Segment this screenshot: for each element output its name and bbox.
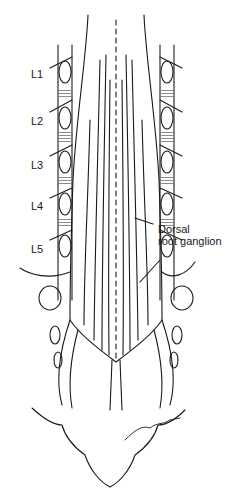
vertebra-label-l2: L2 [31, 115, 43, 127]
vertebra-label-l4: L4 [31, 200, 43, 212]
dorsal-root-ganglion-label: Dorsal root ganglion [158, 223, 222, 247]
annotation-line-1: Dorsal [158, 223, 222, 235]
spine-illustration: L1 L2 L3 L4 L5 Dorsal root ganglion [0, 0, 233, 490]
vertebra-label-l3: L3 [31, 159, 43, 171]
vertebra-label-l1: L1 [31, 68, 43, 80]
annotation-line-2: root ganglion [158, 235, 222, 247]
vertebra-label-l5: L5 [31, 243, 43, 255]
